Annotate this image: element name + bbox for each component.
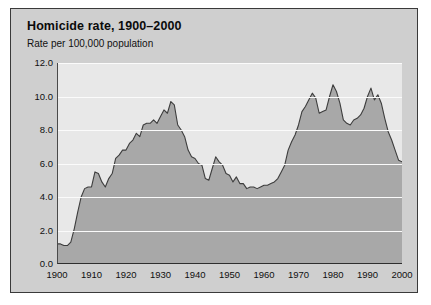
y-tick-label: 4.0 (19, 192, 53, 202)
gridline-6 (57, 164, 402, 165)
x-tick-label: 2000 (382, 270, 422, 280)
plot-area (57, 63, 402, 264)
chart-card: Homicide rate, 1900–2000 Rate per 100,00… (10, 8, 418, 293)
y-tick-label: 0.0 (19, 259, 53, 269)
y-tick-label: 8.0 (19, 125, 53, 135)
area-fill-path (57, 85, 402, 264)
chart-title: Homicide rate, 1900–2000 (27, 19, 182, 33)
gridline-2 (57, 231, 402, 232)
y-tick-label: 2.0 (19, 226, 53, 236)
x-axis: 1900191019201930194019501960197019801990… (57, 270, 402, 286)
chart-subtitle: Rate per 100,000 population (27, 38, 153, 49)
y-axis: 0.02.04.06.08.010.012.0 (17, 63, 53, 264)
gridline-10 (57, 97, 402, 98)
gridline-8 (57, 130, 402, 131)
y-tick-label: 12.0 (19, 58, 53, 68)
gridline-4 (57, 197, 402, 198)
gridline-12 (57, 63, 402, 64)
y-tick-label: 10.0 (19, 92, 53, 102)
y-tick-label: 6.0 (19, 159, 53, 169)
